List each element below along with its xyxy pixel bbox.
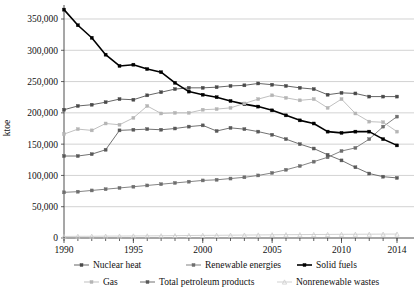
- data-point-marker: [243, 84, 246, 87]
- data-point-marker: [90, 36, 93, 39]
- legend-item-renewable-energies[interactable]: Renewable energies: [186, 260, 281, 270]
- data-point-marker: [192, 264, 195, 267]
- data-point-marker: [368, 120, 371, 123]
- data-point-marker: [298, 165, 301, 168]
- data-point-marker: [201, 86, 204, 89]
- data-point-marker: [146, 104, 149, 107]
- data-point-marker: [215, 130, 218, 133]
- data-point-marker: [90, 189, 93, 192]
- y-axis-title: ktoe: [2, 120, 12, 136]
- data-point-marker: [104, 122, 107, 125]
- data-point-marker: [160, 91, 163, 94]
- data-point-marker: [326, 153, 329, 156]
- data-point-marker: [326, 93, 329, 96]
- data-point-marker: [80, 264, 83, 267]
- chart-canvas: 050,000100,000150,000200,000250,000300,0…: [0, 0, 417, 294]
- data-point-marker: [160, 71, 163, 74]
- data-point-marker: [396, 130, 399, 133]
- data-point-marker: [285, 96, 288, 99]
- data-point-marker: [146, 128, 149, 131]
- data-point-marker: [396, 144, 399, 147]
- data-point-marker: [303, 264, 306, 267]
- data-point-marker: [354, 130, 357, 133]
- series-solid-fuels: [63, 8, 399, 147]
- x-tick-label: 2005: [263, 245, 282, 255]
- legend-item-nuclear-heat[interactable]: Nuclear heat: [74, 260, 142, 270]
- data-point-marker: [326, 106, 329, 109]
- data-point-marker: [271, 109, 274, 112]
- data-point-marker: [132, 128, 135, 131]
- data-point-marker: [382, 95, 385, 98]
- data-point-marker: [340, 159, 343, 162]
- x-tick-label: 2010: [332, 245, 351, 255]
- data-point-marker: [257, 174, 260, 177]
- data-point-marker: [257, 130, 260, 133]
- data-point-marker: [354, 92, 357, 95]
- data-point-marker: [132, 185, 135, 188]
- data-point-marker: [187, 111, 190, 114]
- data-point-marker: [340, 98, 343, 101]
- data-point-marker: [63, 8, 66, 11]
- data-point-marker: [271, 83, 274, 86]
- data-point-marker: [396, 176, 399, 179]
- series-line: [64, 125, 397, 178]
- legend-item-nonrenewable-wastes[interactable]: Nonrenewable wastes: [277, 277, 379, 287]
- legend-item-total-petroleum-products[interactable]: Total petroleum products: [140, 277, 255, 287]
- data-point-marker: [118, 186, 121, 189]
- data-point-marker: [340, 150, 343, 153]
- data-point-marker: [340, 91, 343, 94]
- data-point-marker: [285, 138, 288, 141]
- legend-label: Nuclear heat: [93, 260, 142, 270]
- data-point-marker: [285, 114, 288, 117]
- x-tick-label: 1995: [124, 245, 143, 255]
- data-point-marker: [229, 126, 232, 129]
- data-point-marker: [312, 147, 315, 150]
- data-point-marker: [187, 86, 190, 89]
- data-point-marker: [118, 64, 121, 67]
- data-point-marker: [76, 155, 79, 158]
- data-point-marker: [215, 96, 218, 99]
- y-tick-label: 250,000: [27, 77, 58, 87]
- y-tick-label: 200,000: [27, 108, 58, 118]
- data-point-marker: [174, 88, 177, 91]
- data-point-marker: [243, 176, 246, 179]
- data-point-marker: [146, 184, 149, 187]
- data-point-marker: [201, 179, 204, 182]
- data-point-marker: [396, 95, 399, 98]
- data-point-marker: [298, 119, 301, 122]
- legend-label: Nonrenewable wastes: [296, 277, 379, 287]
- data-point-marker: [257, 105, 260, 108]
- data-point-marker: [90, 103, 93, 106]
- series-lines: [62, 8, 399, 238]
- data-point-marker: [354, 112, 357, 115]
- data-point-marker: [368, 130, 371, 133]
- data-point-marker: [354, 146, 357, 149]
- legend-item-solid-fuels[interactable]: Solid fuels: [297, 260, 357, 270]
- data-point-marker: [326, 130, 329, 133]
- data-point-marker: [340, 131, 343, 134]
- data-point-marker: [285, 84, 288, 87]
- data-point-marker: [104, 53, 107, 56]
- legend-label: Total petroleum products: [159, 277, 255, 287]
- y-tick-label: 0: [53, 233, 58, 243]
- data-point-marker: [63, 155, 66, 158]
- data-point-marker: [215, 86, 218, 89]
- data-point-marker: [63, 191, 66, 194]
- data-point-marker: [90, 281, 93, 284]
- data-point-marker: [382, 125, 385, 128]
- data-point-marker: [368, 95, 371, 98]
- data-point-marker: [174, 127, 177, 130]
- y-tick-label: 100,000: [27, 171, 58, 181]
- series-line: [64, 234, 397, 236]
- data-point-marker: [229, 84, 232, 87]
- legend-item-gas[interactable]: Gas: [84, 277, 118, 287]
- data-point-marker: [298, 99, 301, 102]
- data-point-marker: [229, 177, 232, 180]
- x-tick-label: 1990: [55, 245, 74, 255]
- data-point-marker: [90, 153, 93, 156]
- data-point-marker: [229, 99, 232, 102]
- data-point-marker: [104, 188, 107, 191]
- data-point-marker: [271, 94, 274, 97]
- data-point-marker: [201, 124, 204, 127]
- data-point-marker: [368, 138, 371, 141]
